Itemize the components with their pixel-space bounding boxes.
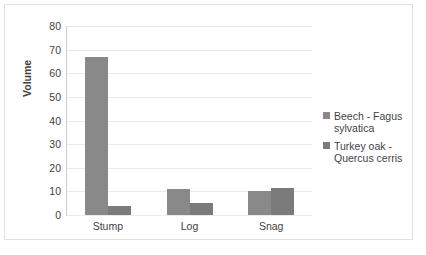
legend-item: Beech - Fagus sylvatica: [323, 110, 415, 134]
x-axis-tick-label: Snag: [231, 220, 311, 232]
bar-group: [167, 26, 213, 215]
legend-item-label: Turkey oak - Quercus cerris: [334, 140, 415, 164]
plot-area: [67, 26, 312, 215]
bar: [190, 203, 213, 215]
bar: [85, 57, 108, 215]
bar-group: [248, 26, 294, 215]
y-axis-tick-label: 60: [27, 68, 61, 78]
legend-swatch-icon: [323, 112, 330, 119]
y-axis-tick-label: 10: [27, 186, 61, 196]
x-axis-tick-label: Stump: [68, 220, 148, 232]
bar-group: [85, 26, 131, 215]
chart-legend: Beech - Fagus sylvaticaTurkey oak - Quer…: [323, 110, 415, 170]
y-axis-tick-label: 20: [27, 163, 61, 173]
y-axis-tick-label: 70: [27, 45, 61, 55]
y-axis-tick-label: 80: [27, 21, 61, 31]
y-axis-tick-label: 50: [27, 92, 61, 102]
x-axis-tick-label: Log: [150, 220, 230, 232]
gridline: [67, 215, 312, 216]
legend-item-label: Beech - Fagus sylvatica: [334, 110, 415, 134]
legend-item: Turkey oak - Quercus cerris: [323, 140, 415, 164]
bar: [167, 189, 190, 215]
y-axis-tick-label: 0: [27, 210, 61, 220]
bar: [108, 206, 131, 215]
bar: [271, 188, 294, 215]
legend-swatch-icon: [323, 142, 330, 149]
y-axis-tick-label: 40: [27, 116, 61, 126]
y-axis-tick-label: 30: [27, 139, 61, 149]
bar: [248, 191, 271, 215]
chart-container: Volume 01020304050607080 StumpLogSnag Be…: [4, 4, 413, 240]
